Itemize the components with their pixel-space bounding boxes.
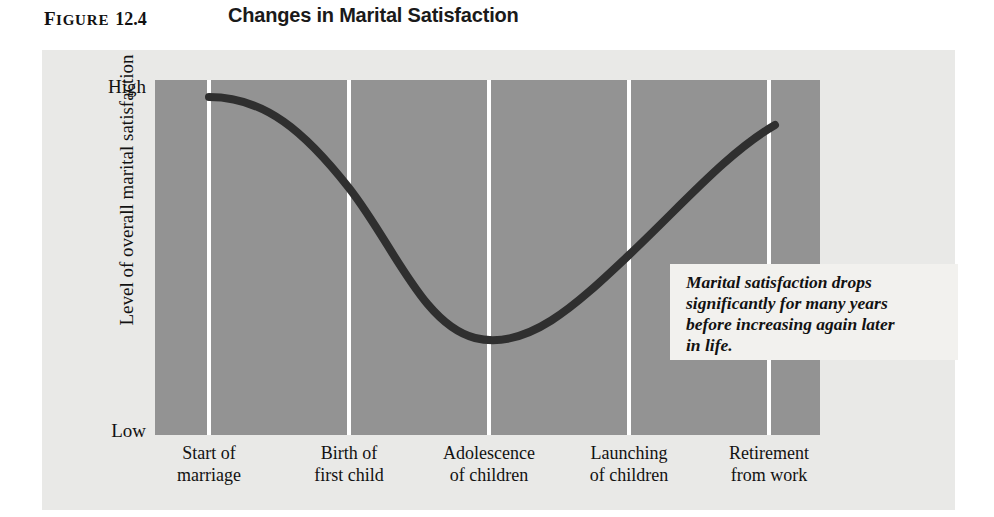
x-tick-launching-of-children: Launching of children <box>554 442 704 486</box>
x-tick-retirement-from-work: Retirement from work <box>694 442 844 486</box>
figure-word-rest: IGURE <box>56 12 109 28</box>
figure-container: FIGURE12.4 Changes in Marital Satisfacti… <box>0 0 994 517</box>
x-tick-birth-of-first-child: Birth of first child <box>274 442 424 486</box>
figure-header: FIGURE12.4 Changes in Marital Satisfacti… <box>0 0 994 46</box>
annotation-text: Marital satisfaction drops significantly… <box>686 272 944 356</box>
annotation-callout: Marital satisfaction drops significantly… <box>670 264 958 360</box>
figure-word-initial: F <box>44 8 56 29</box>
plot-area <box>155 80 820 435</box>
page-title: Changes in Marital Satisfaction <box>228 4 519 27</box>
chart-panel: Level of overall marital satisfaction Hi… <box>42 50 955 510</box>
y-tick-high: High <box>50 76 146 98</box>
chart-svg <box>155 80 820 435</box>
figure-number-label: FIGURE12.4 <box>44 8 147 30</box>
y-tick-low: Low <box>50 420 146 442</box>
figure-number-value: 12.4 <box>115 9 147 29</box>
x-tick-adolescence-of-children: Adolescence of children <box>414 442 564 486</box>
x-tick-start-of-marriage: Start of marriage <box>134 442 284 486</box>
